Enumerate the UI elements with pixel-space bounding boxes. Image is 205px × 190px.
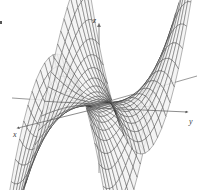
surface-plot-figure: z y x (0, 0, 205, 190)
axis-label-z: z (93, 17, 96, 25)
surface-plot-canvas (0, 0, 205, 190)
edge-artifact-mark (0, 21, 2, 24)
mesh-quad (7, 182, 14, 190)
axis-label-x: x (13, 131, 17, 139)
axis-label-y: y (189, 118, 193, 126)
